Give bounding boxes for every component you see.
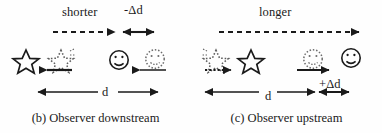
panel-observer-downstream: shorter -Δd d — [0, 0, 191, 133]
panel-observer-upstream: longer +Δd d — [191, 0, 382, 133]
panel-b-caption: (b) Observer downstream — [0, 112, 191, 125]
star-icon-previous — [202, 49, 228, 73]
smiley-face-icon-previous — [146, 50, 164, 68]
star-icon-current — [238, 50, 264, 73]
doppler-effect-figure: shorter -Δd d — [0, 0, 382, 133]
smiley-face-icon-current — [110, 51, 128, 69]
smiley-face-icon-previous — [304, 50, 322, 68]
smiley-face-icon-current — [342, 49, 360, 67]
panel-c-caption: (c) Observer upstream — [191, 112, 382, 125]
star-icon-current — [13, 50, 39, 73]
